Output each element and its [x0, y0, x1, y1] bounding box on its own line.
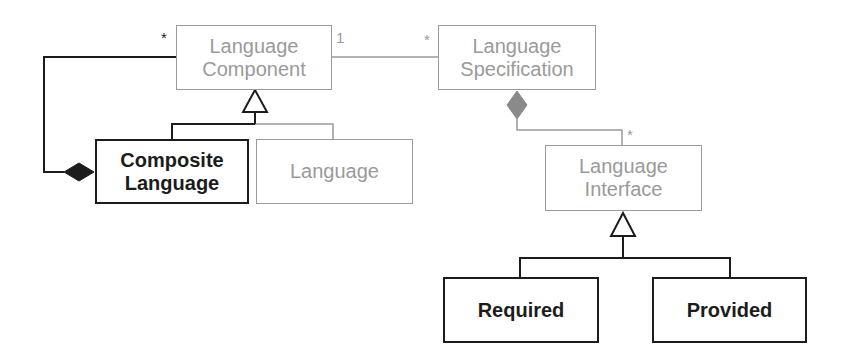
class-required[interactable]: Required [443, 277, 599, 343]
class-language-component[interactable]: Language Component [176, 25, 332, 90]
multiplicity-specification-end: * [424, 32, 430, 47]
class-composite-language[interactable]: Composite Language [95, 139, 249, 204]
filled-diamond-icon [64, 163, 94, 181]
multiplicity-composite-target: * [161, 30, 167, 45]
composition-connector-specification [507, 91, 622, 145]
class-language-interface[interactable]: Language Interface [545, 145, 702, 211]
multiplicity-interface-end: * [627, 127, 633, 142]
generalization-connector-component [172, 90, 333, 139]
class-language[interactable]: Language [256, 139, 413, 204]
hollow-triangle-icon [243, 90, 267, 112]
class-provided[interactable]: Provided [652, 277, 807, 343]
hollow-triangle-icon [611, 213, 635, 236]
uml-diagram-canvas: * 1 * * Language Component Language Spec… [0, 0, 851, 361]
generalization-connector-interface [520, 213, 730, 277]
class-language-specification[interactable]: Language Specification [438, 25, 596, 90]
gray-diamond-icon [507, 91, 527, 119]
multiplicity-component-end: 1 [336, 30, 344, 45]
